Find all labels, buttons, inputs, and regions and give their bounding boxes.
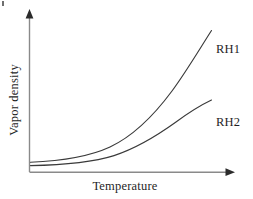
series-label-rh1: RH1	[216, 42, 240, 56]
vapor-density-temperature-figure: RH1 RH2 Temperature Vapor density	[0, 0, 253, 199]
x-axis-title: Temperature	[92, 179, 157, 193]
corner-artifact-mark	[2, 1, 4, 6]
figure-background	[0, 0, 253, 199]
y-axis-title: Vapor density	[7, 64, 21, 136]
chart-canvas: RH1 RH2 Temperature Vapor density	[0, 0, 253, 199]
series-label-rh2: RH2	[216, 115, 240, 129]
